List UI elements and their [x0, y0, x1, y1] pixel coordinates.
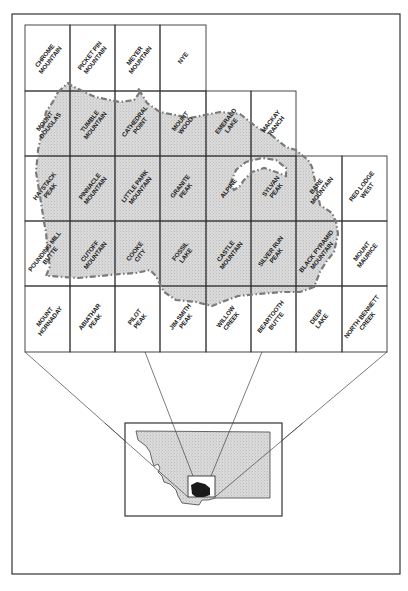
locator-inset — [105, 423, 303, 516]
quadrangle-label: PICKET PINMOUNTAIN — [76, 39, 109, 75]
quadrangle-label: MOUNTHORNADAY — [31, 300, 64, 337]
quadrangle-label: MOUNTMAURICE — [350, 238, 379, 269]
quadrangle-label: MACKAYRANCH — [259, 108, 287, 138]
quadrangle-label: NORTH BENNETTCREEK — [342, 293, 386, 343]
quadrangle-index-map: CHROMEMOUNTAINPICKET PINMOUNTAINMEYERMOU… — [0, 0, 408, 591]
quadrangle-label: CHROMEMOUNTAIN — [32, 40, 63, 75]
quadrangle-label: DEEPLAKE — [308, 308, 329, 330]
quadrangle-label: JIM SMITHPEAK — [168, 302, 198, 335]
quadrangle-label: NYE — [176, 51, 189, 65]
quadrangle-label: MEYERMOUNTAIN — [122, 40, 153, 75]
quadrangle-label: RED LODGEWEST — [347, 169, 381, 206]
quadrangle-label: BEARTOOTHBUTTE — [256, 299, 291, 339]
quadrangle-label: ABIATHARPEAK — [77, 301, 108, 335]
quadrangle-label: PILOTPEAK — [126, 307, 148, 330]
quadrangle-label: WILLOWCREEK — [215, 304, 242, 333]
